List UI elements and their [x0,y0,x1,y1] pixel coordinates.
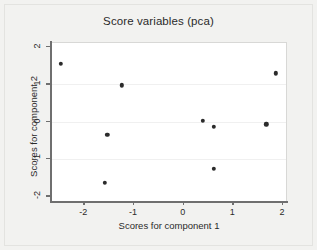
gridline [51,159,286,160]
x-tick-mark [133,201,134,205]
y-axis-title: Scores for component 2 [28,47,39,207]
y-axis-line [50,41,52,202]
y-tick-mark [46,195,50,196]
plot-area [51,42,287,201]
y-tick-mark [46,46,50,47]
y-tick-mark [46,83,50,84]
x-tick-mark [232,201,233,205]
x-tick-label: -1 [129,207,137,217]
x-tick-mark [83,201,84,205]
chart-figure: Score variables (pca) -2-1012 -2-1012 Sc… [0,0,317,250]
x-tick-label: 2 [280,207,285,217]
x-axis-line [50,201,288,203]
x-axis-title: Scores for component 1 [51,220,287,231]
y-tick-mark [46,121,50,122]
gridline [51,122,286,123]
x-tick-label: 0 [180,207,185,217]
x-tick-label: 1 [230,207,235,217]
chart-title: Score variables (pca) [0,15,317,27]
x-tick-mark [183,201,184,205]
y-tick-mark [46,158,50,159]
gridline [51,84,286,85]
x-tick-mark [282,201,283,205]
x-tick-label: -2 [79,207,87,217]
